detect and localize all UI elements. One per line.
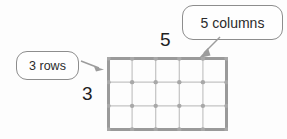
grid-node-dot	[177, 80, 181, 84]
diagram-canvas: 3 rows 5 columns 5 3	[0, 0, 287, 139]
dimension-label-rows: 3	[82, 84, 93, 103]
grid-node-dot	[201, 127, 205, 131]
callout-box-3-rows: 3 rows	[16, 51, 79, 80]
grid-node-dot	[154, 57, 158, 61]
array-grid-svg	[107, 57, 228, 131]
grid-node-dot	[130, 57, 134, 61]
grid-node-dot	[107, 127, 111, 131]
grid-node-dot	[154, 104, 158, 108]
array-grid	[107, 57, 228, 131]
callout-label-rows: 3 rows	[29, 59, 66, 73]
grid-node-dot	[130, 104, 134, 108]
grid-node-dot	[107, 104, 111, 108]
arrow-rows-shaft	[81, 61, 99, 68]
grid-node-dot	[201, 104, 205, 108]
grid-node-dot	[177, 104, 181, 108]
grid-node-dot	[130, 127, 134, 131]
grid-outer-border	[109, 59, 227, 130]
arrow-rows-to-grid	[80, 56, 106, 74]
callout-box-5-columns: 5 columns	[182, 5, 283, 40]
grid-node-dot	[177, 57, 181, 61]
grid-node-dot	[201, 57, 205, 61]
grid-node-dot	[130, 80, 134, 84]
grid-node-dot	[154, 80, 158, 84]
grid-node-dot	[224, 57, 228, 61]
callout-label-columns: 5 columns	[201, 15, 265, 31]
grid-node-dot	[177, 127, 181, 131]
grid-node-dot	[224, 127, 228, 131]
grid-node-dot	[201, 80, 205, 84]
dimension-label-columns: 5	[160, 30, 171, 49]
grid-node-dot	[154, 127, 158, 131]
grid-node-dot	[224, 80, 228, 84]
grid-node-dot	[107, 80, 111, 84]
grid-node-dot	[107, 57, 111, 61]
grid-node-dot	[224, 104, 228, 108]
